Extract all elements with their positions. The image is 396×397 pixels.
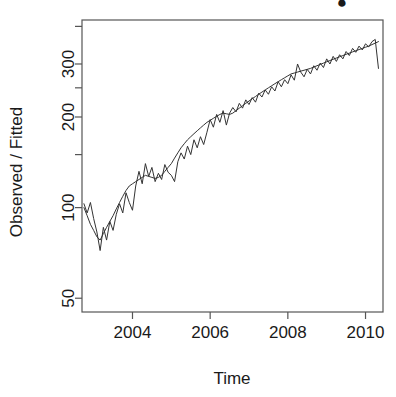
x-tick-label: 2004	[114, 323, 152, 342]
y-tick-label: 50	[60, 289, 79, 308]
chart-figure: ● 50100200300 2004200620082010 Time Obse…	[0, 0, 396, 397]
chart-title-clipped: ●	[337, 0, 347, 12]
x-tick-label: 2008	[269, 323, 307, 342]
x-tick-label: 2010	[347, 323, 385, 342]
x-tick-label: 2006	[191, 323, 229, 342]
y-tick-label: 300	[60, 50, 79, 78]
y-tick-label: 200	[60, 103, 79, 131]
y-tick-label: 100	[60, 193, 79, 221]
x-axis-title: Time	[213, 369, 250, 388]
y-axis-title: Observed / Fitted	[7, 107, 26, 237]
